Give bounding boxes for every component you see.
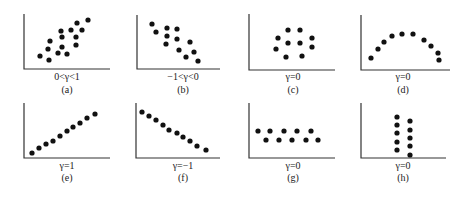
data-point (68, 27, 73, 32)
data-point (436, 57, 441, 62)
axes (249, 14, 335, 70)
data-point (407, 143, 412, 148)
data-point (36, 145, 41, 150)
data-point (308, 128, 313, 133)
panel-caption: (a) (61, 84, 72, 96)
data-point (194, 143, 199, 148)
axes (249, 103, 335, 158)
data-point (276, 137, 281, 142)
correlation-label: γ=0 (284, 71, 300, 82)
data-point (407, 118, 412, 123)
panel-caption: (b) (177, 84, 189, 96)
scatter-panel-g: γ=0(g) (249, 103, 335, 184)
data-point (58, 28, 63, 33)
data-point (59, 34, 64, 39)
data-point (407, 152, 412, 157)
data-point (64, 128, 69, 133)
data-point (255, 128, 260, 133)
correlation-label: γ=0 (394, 71, 410, 82)
panel-caption: (f) (178, 172, 188, 184)
data-point (50, 138, 55, 143)
scatter-panel-f: γ=−1(f) (136, 103, 220, 184)
axes (24, 14, 110, 69)
data-point (166, 127, 171, 132)
data-point (285, 27, 290, 32)
data-point (289, 137, 294, 142)
data-point (46, 57, 51, 62)
data-point (375, 46, 380, 51)
panel-caption: (g) (287, 172, 299, 184)
panel-caption: (c) (287, 84, 298, 96)
data-point (47, 38, 52, 43)
correlation-label: −1<γ<0 (167, 71, 198, 82)
data-point (303, 137, 308, 142)
data-point (174, 130, 179, 135)
data-point (394, 139, 399, 144)
scatter-panel-d: γ=0(d) (361, 15, 450, 96)
data-point (164, 33, 169, 38)
data-point (163, 41, 168, 46)
data-point (79, 27, 84, 32)
data-point (263, 137, 268, 142)
data-point (297, 40, 302, 45)
scatter-panel-b: −1<γ<0(b) (137, 15, 220, 96)
data-point (407, 127, 412, 132)
data-point (153, 117, 158, 122)
data-point (77, 120, 82, 125)
data-point (283, 54, 288, 59)
data-point (37, 53, 42, 58)
data-point (180, 134, 185, 139)
data-point (84, 115, 89, 120)
data-point (435, 50, 440, 55)
data-point (73, 34, 78, 39)
data-point (187, 138, 192, 143)
data-point (191, 49, 196, 54)
correlation-label: 0<γ<1 (54, 71, 80, 82)
data-point (73, 42, 78, 47)
data-point (394, 130, 399, 135)
data-point (149, 21, 154, 26)
data-point (29, 150, 34, 155)
scatter-panel-a: 0<γ<1(a) (24, 14, 110, 96)
data-point (399, 31, 404, 36)
panel-caption: (d) (397, 84, 409, 96)
axes (361, 103, 446, 158)
data-point (368, 55, 373, 60)
data-point (174, 26, 179, 31)
data-point (394, 122, 399, 127)
data-point (273, 46, 278, 51)
data-point (428, 43, 433, 48)
panel-caption: (e) (61, 172, 72, 184)
scatter-correlation-figure: 0<γ<1(a)−1<γ<0(b)γ=0(c)γ=0(d)γ=1(e)γ=−1(… (0, 0, 465, 197)
axes (361, 15, 450, 70)
data-point (139, 109, 144, 114)
correlation-label: γ=−1 (172, 160, 194, 171)
correlation-label: γ=1 (58, 160, 74, 171)
data-point (410, 31, 415, 36)
panel-caption: (h) (397, 172, 409, 184)
data-point (315, 137, 320, 142)
data-point (275, 35, 280, 40)
data-point (160, 122, 165, 127)
data-point (176, 47, 181, 52)
data-point (309, 35, 314, 40)
data-point (394, 147, 399, 152)
correlation-label: γ=0 (394, 160, 410, 171)
axes (137, 15, 220, 69)
data-point (57, 133, 62, 138)
data-point (309, 44, 314, 49)
data-point (281, 128, 286, 133)
data-point (294, 128, 299, 133)
data-point (195, 58, 200, 63)
data-point (153, 29, 158, 34)
scatter-panel-c: γ=0(c) (249, 14, 335, 96)
data-point (74, 20, 79, 25)
data-point (85, 17, 90, 22)
data-point (203, 147, 208, 152)
data-point (421, 37, 426, 42)
scatter-panel-e: γ=1(e) (24, 103, 110, 184)
data-point (92, 111, 97, 116)
data-point (183, 54, 188, 59)
scatter-panel-h: γ=0(h) (361, 103, 446, 184)
data-point (297, 27, 302, 32)
